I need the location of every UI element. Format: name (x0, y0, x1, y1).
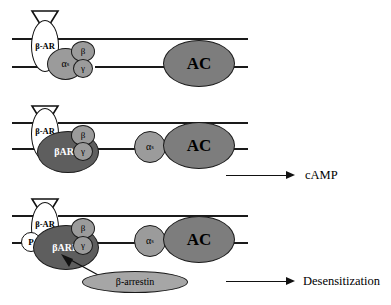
beta-arrestin: β-arrestin (82, 271, 188, 293)
desensitization-arrow-shaft (226, 281, 287, 282)
alpha-subscript: s (151, 144, 154, 151)
g-gamma-subunit: γ (73, 59, 93, 78)
beta-label: β (81, 224, 86, 233)
adenylyl-cyclase: AC (163, 40, 235, 87)
ac-label: AC (187, 231, 212, 248)
beta-label: β (81, 47, 86, 56)
adenylyl-cyclase: AC (163, 216, 235, 263)
gamma-label: γ (81, 147, 85, 156)
alpha-subscript: s (67, 61, 70, 68)
receptor-label: β-AR (35, 42, 55, 51)
panel-basal: β-AR αs β γ AC (0, 0, 391, 100)
g-alpha-s-subunit: αs (134, 131, 166, 163)
gamma-label: γ (81, 64, 85, 73)
desensitization-arrow-head-icon (286, 277, 295, 285)
membrane-outer-leaflet-right (58, 122, 248, 124)
camp-arrow-shaft (226, 175, 287, 176)
beta-label: β (81, 131, 86, 140)
arrestin-label: β-arrestin (116, 277, 154, 287)
membrane-outer-leaflet-right (58, 38, 248, 40)
g-alpha-s-subunit: αs (134, 225, 166, 257)
membrane-inner-leaflet-mid (93, 242, 136, 244)
camp-arrow-head-icon (286, 171, 295, 179)
desensitization-output-label: Desensitization (303, 274, 380, 289)
alpha-subscript: s (151, 238, 154, 245)
camp-output-label: cAMP (305, 168, 338, 183)
ac-label: AC (187, 55, 212, 72)
ac-label: AC (187, 137, 212, 154)
membrane-inner-leaflet-mid (93, 148, 136, 150)
panel-activated: β-AR βARK β γ αs AC cAMP (0, 100, 391, 197)
adenylyl-cyclase: AC (163, 122, 235, 169)
panel-desensitized: β-AR P βARK β γ αs AC β-arrestin Desensi… (0, 197, 391, 305)
gamma-label: γ (81, 241, 85, 250)
membrane-outer-leaflet-right (58, 215, 248, 217)
g-gamma-subunit: γ (73, 142, 93, 161)
